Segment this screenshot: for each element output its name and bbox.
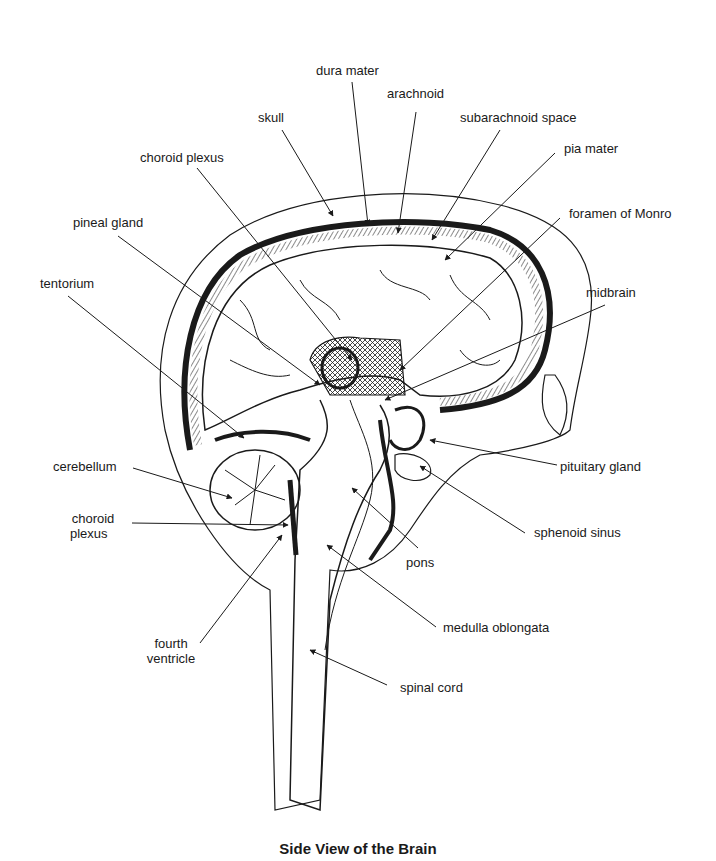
- label-fourth-ventricle-line2: ventricle: [140, 651, 202, 666]
- label-dura-mater: dura mater: [316, 63, 379, 78]
- label-choroid-plexus-side-line2: plexus: [68, 526, 118, 541]
- label-pons: pons: [406, 555, 434, 570]
- label-choroid-plexus-side-line1: choroid: [68, 511, 118, 526]
- label-fourth-ventricle-line1: fourth: [140, 636, 202, 651]
- label-subarachnoid-space: subarachnoid space: [460, 110, 576, 125]
- label-fourth-ventricle: fourth ventricle: [140, 636, 202, 666]
- label-sphenoid-sinus: sphenoid sinus: [534, 525, 621, 540]
- brainstem-spinal-cord: [290, 400, 389, 810]
- label-cerebellum: cerebellum: [53, 459, 117, 474]
- label-choroid-plexus-side: choroid plexus: [68, 511, 118, 541]
- label-choroid-plexus-top: choroid plexus: [140, 150, 224, 165]
- dura-mater-band: [184, 222, 549, 450]
- label-arachnoid: arachnoid: [387, 86, 444, 101]
- label-pineal-gland: pineal gland: [73, 215, 143, 230]
- label-skull: skull: [258, 110, 284, 125]
- label-pia-mater: pia mater: [564, 141, 618, 156]
- diagram-caption: Side View of the Brain: [0, 840, 716, 857]
- label-spinal-cord: spinal cord: [400, 680, 463, 695]
- brain-side-view-illustration: [0, 0, 716, 861]
- label-medulla-oblongata: medulla oblongata: [443, 620, 549, 635]
- label-foramen-of-monro: foramen of Monro: [569, 206, 672, 221]
- label-pituitary-gland: pituitary gland: [560, 459, 641, 474]
- label-midbrain: midbrain: [586, 285, 636, 300]
- label-tentorium: tentorium: [40, 276, 94, 291]
